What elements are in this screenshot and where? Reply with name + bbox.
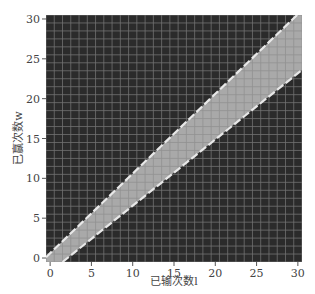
chart: 051015202530 051015202530 已输次数l 已赢次数w (0, 0, 315, 294)
y-tick-label: 30 (26, 13, 40, 26)
x-tick-label: 20 (208, 267, 222, 280)
x-tick-label: 5 (88, 267, 95, 280)
y-axis-label: 已赢次数w (11, 111, 25, 165)
y-tick-label: 10 (26, 172, 40, 185)
y-tick-label: 5 (33, 212, 40, 225)
y-axis: 051015202530 (26, 13, 46, 265)
y-tick-label: 20 (26, 93, 40, 106)
x-axis-label: 已输次数l (150, 274, 198, 288)
plot-area (46, 10, 302, 262)
y-tick-label: 0 (33, 252, 40, 265)
y-tick-label: 25 (26, 53, 40, 66)
x-tick-label: 0 (47, 267, 54, 280)
y-tick-label: 15 (26, 133, 40, 146)
x-tick-label: 30 (291, 267, 305, 280)
x-tick-label: 25 (250, 267, 264, 280)
x-tick-label: 10 (126, 267, 140, 280)
